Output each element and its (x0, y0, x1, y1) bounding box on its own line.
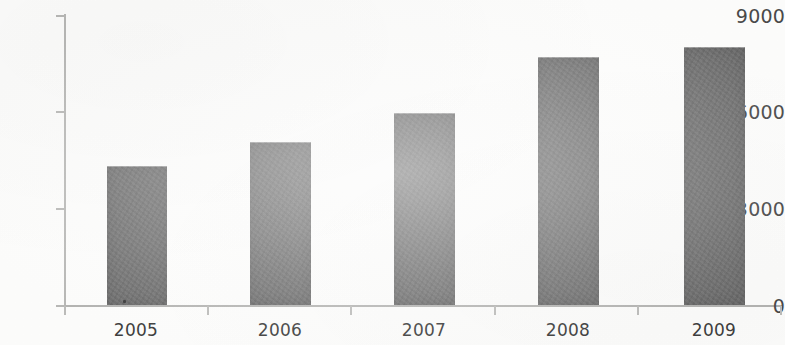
y-axis-tick-9000 (56, 15, 65, 17)
x-axis-label-2007: 2007 (379, 320, 469, 340)
scan-artifact-speck (123, 300, 126, 303)
x-axis-tick-2 (350, 306, 352, 315)
x-axis-label-2005: 2005 (91, 320, 181, 340)
bar-top-edge (250, 142, 311, 143)
x-axis-tick-3 (494, 306, 496, 315)
y-axis-tick-6000 (56, 111, 65, 113)
y-axis-label-9000: 9000 (733, 5, 785, 27)
x-axis-tick-4 (637, 306, 639, 315)
bar-top-edge (538, 57, 599, 58)
bar-2007 (394, 113, 455, 305)
x-axis-label-2006: 2006 (235, 320, 325, 340)
x-axis-label-2008: 2008 (523, 320, 613, 340)
x-axis-line (64, 305, 782, 307)
bar-2008 (538, 57, 599, 305)
x-axis-tick-5 (780, 306, 782, 315)
y-axis-line (64, 14, 66, 307)
bar-2006 (250, 142, 311, 305)
bar-chart-figure: 9000 6000 3000 0 2005 2006 2007 2008 200… (0, 0, 785, 345)
bar-top-edge (107, 166, 167, 167)
bar-top-edge (684, 47, 745, 48)
bar-top-edge (394, 113, 455, 114)
bar-2005 (107, 166, 167, 305)
x-axis-label-2009: 2009 (669, 320, 759, 340)
x-axis-tick-0 (64, 306, 66, 315)
x-axis-tick-1 (207, 306, 209, 315)
y-axis-tick-3000 (56, 208, 65, 210)
bar-2009 (684, 47, 745, 305)
